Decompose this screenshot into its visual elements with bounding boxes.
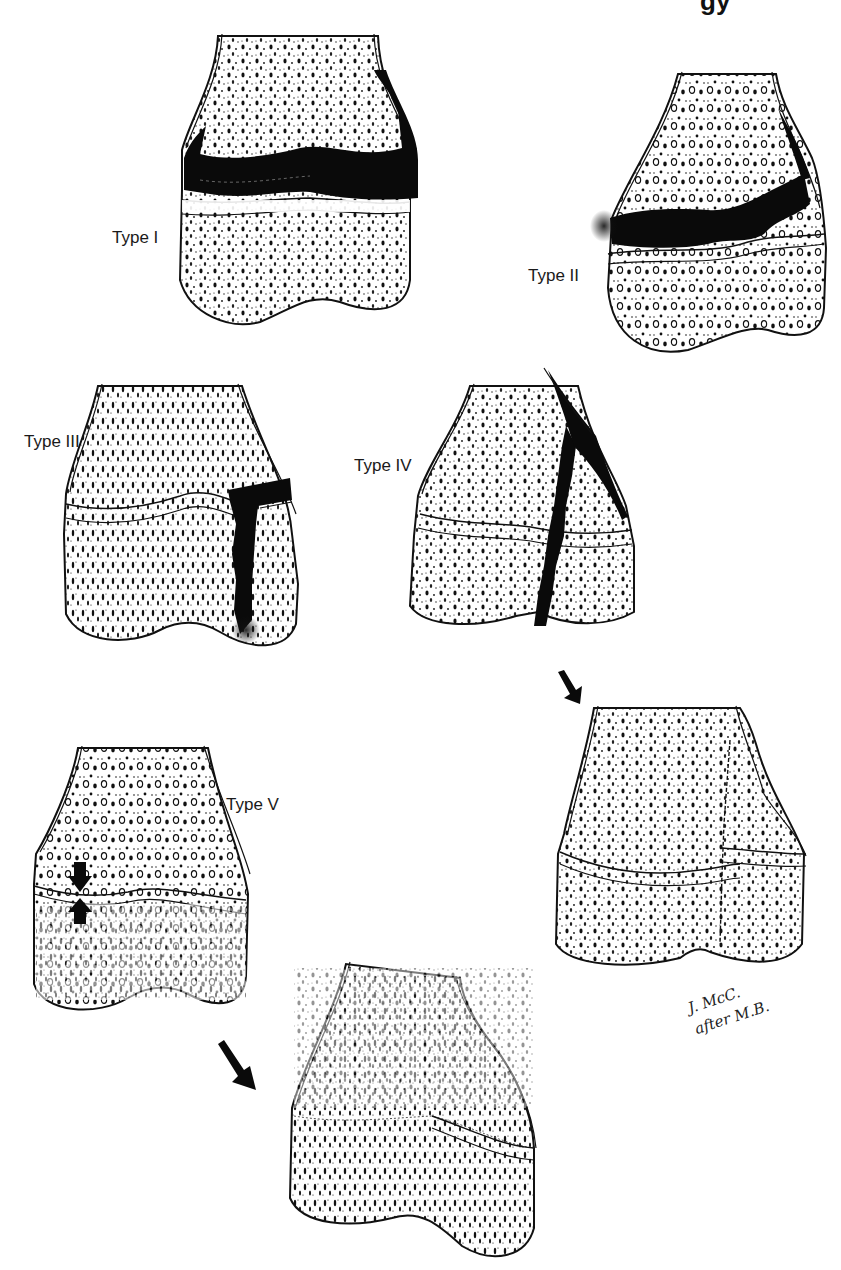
artist-signature: J. McC. after M.B. [685, 974, 772, 1040]
type-5-bone-diagram [28, 744, 260, 1024]
type-5-healed-bone-diagram [282, 958, 546, 1270]
type-1-label: Type I [112, 228, 158, 248]
type-2-label: Type II [528, 266, 579, 286]
progression-arrow-type-5 [218, 1040, 258, 1096]
type-4-healed-bone-diagram [550, 704, 814, 978]
type-4-bone-diagram [396, 366, 656, 650]
type-3-bone-diagram [60, 384, 310, 668]
type-2-bone-diagram [598, 68, 838, 372]
header-title-fragment: gy [700, 0, 730, 17]
type-1-bone-diagram [170, 30, 430, 334]
